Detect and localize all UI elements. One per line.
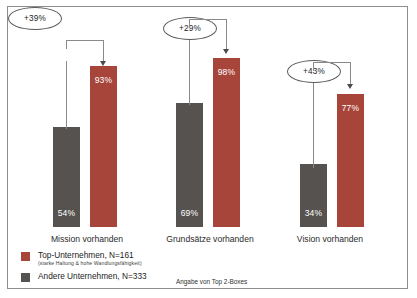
bar-value-andere-mission: 54% — [53, 208, 80, 218]
bar-value-andere-grundsaetze: 69% — [176, 208, 203, 218]
chart-frame: 54% 93% +39% Mission vorhanden 69% 98% +… — [7, 6, 408, 289]
legend-swatch-top — [21, 252, 30, 261]
bar-value-top-mission: 93% — [90, 75, 117, 85]
legend-label-top: Top-Unternehmen, N=161 — [38, 250, 134, 260]
bar-andere-grundsaetze: 69% — [176, 103, 203, 227]
bar-andere-mission: 54% — [53, 127, 80, 227]
callout-text-mission: +39% — [24, 14, 46, 23]
callout-arrow-vision — [347, 84, 353, 89]
callout-leader-top-vision — [313, 62, 314, 71]
category-label-mission: Mission vorhanden — [20, 234, 154, 244]
callout-leader-down-grundsaetze — [189, 40, 190, 105]
bar-value-andere-vision: 34% — [300, 208, 327, 218]
callout-leader-down-vision — [313, 83, 314, 168]
callout-leader-horizontal-vision — [313, 62, 350, 63]
bar-value-top-grundsaetze: 98% — [213, 67, 240, 77]
callout-leader-arrowstem-vision — [350, 62, 351, 85]
bar-andere-vision: 34% — [300, 164, 327, 227]
callout-leader-horizontal-grundsaetze — [189, 19, 226, 20]
callout-leader-horizontal-mission — [66, 40, 103, 41]
callout-bubble-grundsaetze: +29% — [163, 17, 217, 40]
legend-swatch-andere — [21, 273, 30, 282]
chart-footnote: Angabe von Top 2-Boxes — [176, 278, 247, 285]
callout-bubble-mission: +39% — [8, 7, 62, 30]
legend-label-andere: Andere Unternehmen, N=333 — [38, 271, 147, 281]
callout-leader-arrowstem-grundsaetze — [226, 19, 227, 50]
legend-sublabel-top: (starke Haltung & hohe Wandlungsfähigkei… — [38, 260, 142, 266]
bar-value-top-vision: 77% — [337, 103, 364, 113]
callout-bubble-vision: +43% — [287, 60, 341, 83]
callout-leader-top-mission — [66, 40, 67, 49]
bar-top-grundsaetze: 98% — [213, 58, 240, 227]
plot-area: 54% 93% +39% Mission vorhanden 69% 98% +… — [8, 7, 409, 290]
callout-arrow-grundsaetze — [223, 49, 229, 54]
category-label-vision: Vision vorhanden — [270, 234, 390, 244]
callout-leader-top-grundsaetze — [189, 19, 190, 28]
callout-text-grundsaetze: +29% — [179, 24, 201, 33]
callout-text-vision: +43% — [303, 67, 325, 76]
callout-leader-arrowstem-mission — [103, 40, 104, 62]
bar-top-mission: 93% — [90, 66, 117, 227]
bar-top-vision: 77% — [337, 94, 364, 227]
category-label-grundsaetze: Grundsätze vorhanden — [143, 234, 277, 244]
callout-arrow-mission — [100, 61, 106, 66]
callout-leader-down-mission — [66, 61, 67, 129]
